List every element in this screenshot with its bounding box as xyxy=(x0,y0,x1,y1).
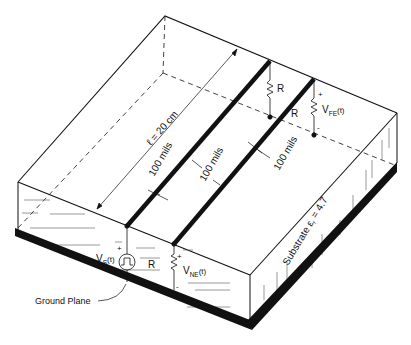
substrate-label: Substrate εr = 4.7 xyxy=(280,195,330,268)
substrate-left-face xyxy=(18,113,397,320)
resistor-far-1-label: R xyxy=(277,83,284,94)
trace-victim xyxy=(174,79,314,244)
resistor-far-1-icon xyxy=(267,80,273,98)
ne-minus: - xyxy=(176,282,179,291)
ne-plus: + xyxy=(177,252,182,261)
ne-voltage-label: VNE(t) xyxy=(183,265,207,278)
ground-plane-label: Ground Plane xyxy=(35,296,91,306)
resistor-near-label: R xyxy=(148,259,155,270)
ground-plane-leader xyxy=(98,284,126,301)
hidden-edges xyxy=(18,16,397,228)
microstrip-diagram: ℓ = 20 cm 100 mils 100 mils 100 mils VS(… xyxy=(0,0,411,345)
spacing-label-2: 100 mils xyxy=(197,145,225,183)
pulse-source-icon xyxy=(119,254,135,270)
source-plus: + xyxy=(117,244,122,253)
fe-minus: - xyxy=(317,123,320,132)
resistor-far-2-label: R xyxy=(291,108,298,119)
length-dimension: ℓ = 20 cm xyxy=(97,49,237,209)
fe-plus: + xyxy=(318,90,323,99)
substrate-top-face xyxy=(18,16,397,275)
fe-voltage-label: VFE(t) xyxy=(322,104,345,117)
resistor-far-2-icon xyxy=(311,98,317,116)
spacing-label-3: 100 mils xyxy=(271,134,299,172)
length-label: ℓ = 20 cm xyxy=(144,108,180,147)
